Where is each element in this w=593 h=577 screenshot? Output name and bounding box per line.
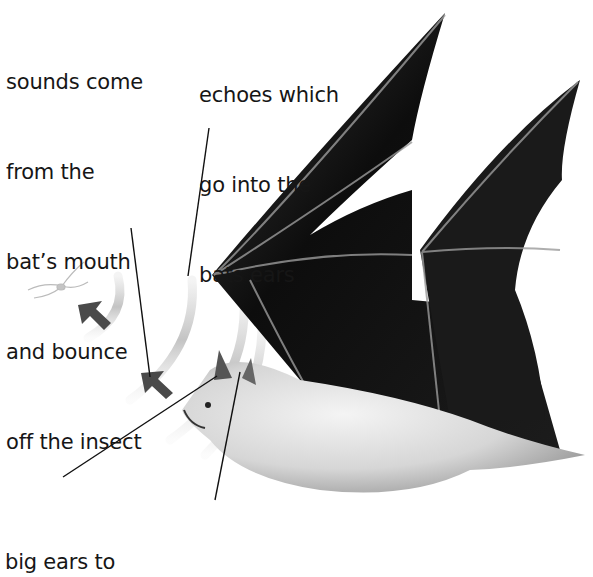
label-line: off the insect xyxy=(6,427,143,457)
label-cut-off-line: allow the bat to hear... xyxy=(6,518,238,533)
label-line: sounds come xyxy=(6,67,143,97)
label-line: from the xyxy=(6,157,143,187)
label-echoes: echoes which go into the bats ears xyxy=(199,20,339,320)
arrow-icon xyxy=(141,371,173,399)
label-sounds: sounds come from the bat’s mouth and bou… xyxy=(6,7,143,487)
label-line: big ears to xyxy=(5,547,115,577)
label-line: bat’s mouth xyxy=(6,247,143,277)
label-line: go into the xyxy=(199,170,339,200)
label-line: echoes which xyxy=(199,80,339,110)
label-line: and bounce xyxy=(6,337,143,367)
label-line: bats ears xyxy=(199,260,339,290)
